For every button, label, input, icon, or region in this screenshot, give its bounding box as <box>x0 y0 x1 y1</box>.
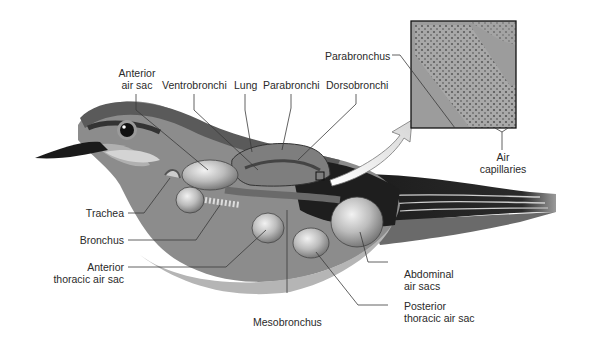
label-line: Anterior <box>40 261 124 273</box>
label-anterior-air-sac: Anterior air sac <box>115 67 159 91</box>
eye <box>120 123 134 137</box>
label-trachea: Trachea <box>60 207 124 219</box>
label-lung: Lung <box>234 79 257 91</box>
label-line: Anterior <box>115 67 159 79</box>
bird-respiratory-diagram: Anterior air sac Ventrobronchi Lung Para… <box>0 0 589 346</box>
label-line: thoracic air sac <box>40 273 124 285</box>
label-line: capillaries <box>478 163 528 175</box>
label-air-capillaries: Air capillaries <box>478 151 528 175</box>
posterior-thoracic-air-sac <box>293 228 329 258</box>
label-anterior-thoracic-air-sac: Anterior thoracic air sac <box>40 261 124 285</box>
label-ventrobronchi: Ventrobronchi <box>162 79 227 91</box>
label-parabronchus: Parabronchus <box>325 50 390 62</box>
label-line: air sac <box>115 79 159 91</box>
label-line: Posterior <box>404 300 475 312</box>
label-mesobronchus: Mesobronchus <box>253 316 322 328</box>
label-line: Abdominal <box>404 268 454 280</box>
label-line: air sacs <box>404 280 454 292</box>
label-abdominal-air-sacs: Abdominal air sacs <box>404 268 454 292</box>
anterior-air-sac <box>182 160 238 190</box>
label-line: Air <box>478 151 528 163</box>
label-line: thoracic air sac <box>404 312 475 324</box>
label-dorsobronchi: Dorsobronchi <box>326 79 388 91</box>
label-posterior-thoracic-air-sac: Posterior thoracic air sac <box>404 300 475 324</box>
parabronchus-inset <box>411 21 516 128</box>
abdominal-air-sac <box>331 197 383 247</box>
label-bronchus: Bronchus <box>60 234 124 246</box>
label-parabronchi: Parabronchi <box>263 79 320 91</box>
lung <box>232 143 330 186</box>
